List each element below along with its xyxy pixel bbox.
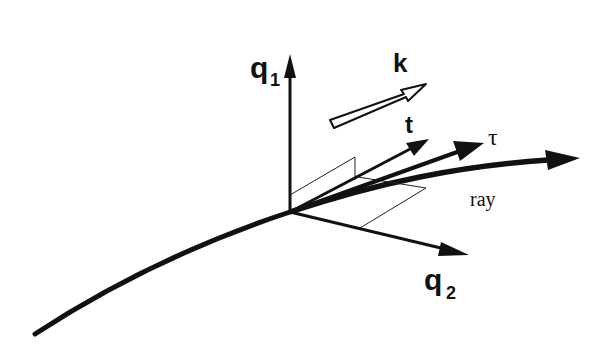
q2-subscript: 2 <box>446 283 456 303</box>
tau-arrowhead-icon <box>453 141 484 161</box>
tau-vector <box>290 151 460 212</box>
q1-label: q <box>250 51 268 84</box>
t-arrowhead-icon <box>406 139 429 156</box>
projection-line-upper <box>290 157 355 195</box>
ray-geometry-diagram: q 1 k t τ ray q 2 <box>0 0 612 356</box>
ray-label: ray <box>470 188 496 211</box>
q1-subscript: 1 <box>270 70 280 90</box>
q1-arrowhead-icon <box>284 54 296 78</box>
q2-axis <box>290 212 445 249</box>
q2-label: q <box>424 263 442 296</box>
ray-curve-incoming <box>35 212 290 334</box>
k-label: k <box>393 48 408 78</box>
tau-label: τ <box>488 124 498 150</box>
t-label: t <box>405 111 413 138</box>
ray-arrowhead-icon <box>545 150 580 170</box>
q2-arrowhead-icon <box>438 242 469 256</box>
